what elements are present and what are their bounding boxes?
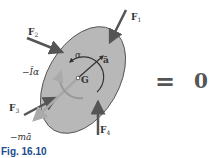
label-f3: F3 (9, 104, 19, 114)
label-f2: F2 (28, 28, 38, 38)
mass-center (76, 76, 80, 80)
figure-caption: Fig. 16.10 (1, 146, 47, 157)
label-f1: F1 (131, 13, 141, 23)
label-inertia-force: −mā (10, 133, 31, 142)
equals-sign: = (155, 67, 175, 96)
label-accel: ā (103, 56, 109, 65)
label-g: G (81, 76, 89, 85)
force-f2-arrow (27, 38, 62, 52)
label-inertia-couple: −Īα (22, 68, 39, 77)
label-alpha: α (75, 51, 81, 60)
label-f4: F4 (100, 126, 110, 136)
zero-result: 0 (194, 69, 208, 93)
